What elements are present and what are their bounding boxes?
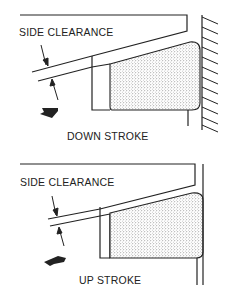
clearance-diagram-svg xyxy=(0,0,230,295)
side-clearance-dimension xyxy=(41,45,58,100)
side-clearance-label-bottom: SIDE CLEARANCE xyxy=(20,176,114,188)
side-clearance-dimension xyxy=(52,196,64,246)
up-arrow-icon xyxy=(44,256,66,266)
side-clearance-label-top: SIDE CLEARANCE xyxy=(19,26,113,38)
piston-ring-block xyxy=(110,42,200,110)
down-arrow-icon xyxy=(40,108,58,118)
down-stroke-label: DOWN STROKE xyxy=(67,130,149,142)
wall-hatching xyxy=(202,17,218,132)
ring-bottom-line xyxy=(38,67,92,81)
up-stroke-label: UP STROKE xyxy=(79,274,141,286)
